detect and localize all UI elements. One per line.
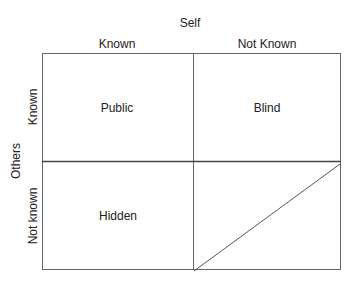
- unknown-quadrant-diagonal: [194, 164, 340, 271]
- johari-window-grid: [0, 0, 356, 284]
- column-header-not-known: Not Known: [238, 37, 297, 51]
- self-axis-title: Self: [180, 16, 201, 30]
- quadrant-hidden: Hidden: [99, 209, 137, 223]
- quadrant-public: Public: [101, 101, 134, 115]
- column-header-known: Known: [99, 37, 136, 51]
- row-header-known: Known: [26, 89, 40, 126]
- quadrant-blind: Blind: [254, 101, 281, 115]
- row-header-not-known: Not known: [26, 188, 40, 245]
- others-axis-title: Others: [9, 143, 23, 179]
